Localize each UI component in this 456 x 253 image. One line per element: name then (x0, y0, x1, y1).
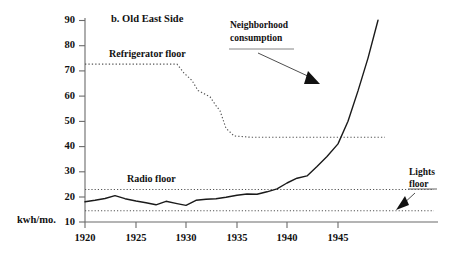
panel-title: b. Old East Side (111, 13, 183, 24)
neighborhood-consumption-callout-line2: consumption (230, 33, 282, 44)
x-tick-label-1935: 1935 (217, 232, 257, 243)
y-tick-label-30: 30 (53, 165, 75, 176)
refrigerator-floor-line (85, 64, 385, 137)
y-tick-label-10: 10 (53, 216, 75, 227)
x-tick-label-1925: 1925 (116, 232, 156, 243)
x-tick-label-1940: 1940 (267, 232, 307, 243)
neighborhood-callout-arrowhead (304, 71, 320, 84)
lights-floor-callout-arrowhead (396, 196, 409, 210)
y-tick-label-20: 20 (53, 191, 75, 202)
lights-floor-callout-line1: Lights (409, 167, 435, 178)
neighborhood-consumption-callout-line1: Neighborhood (230, 20, 288, 31)
y-tick-label-90: 90 (53, 14, 75, 25)
y-tick-label-60: 60 (53, 90, 75, 101)
radio-floor-label: Radio floor (127, 174, 176, 185)
neighborhood-callout-arrow-shaft (258, 53, 312, 78)
chart-container: b. Old East Side kwh/mo. 90 80 70 60 50 … (0, 0, 456, 253)
x-tick-label-1930: 1930 (166, 232, 206, 243)
y-tick-label-70: 70 (53, 64, 75, 75)
x-tick-label-1920: 1920 (65, 232, 105, 243)
refrigerator-floor-label: Refrigerator floor (109, 49, 186, 60)
y-axis-unit-label: kwh/mo. (17, 214, 56, 225)
x-axis-ticks (85, 222, 338, 228)
lights-floor-callout-line2: floor (409, 179, 429, 190)
y-tick-label-40: 40 (53, 140, 75, 151)
x-tick-label-1945: 1945 (318, 232, 358, 243)
y-tick-label-50: 50 (53, 115, 75, 126)
y-axis-ticks (79, 21, 85, 223)
y-tick-label-80: 80 (53, 39, 75, 50)
